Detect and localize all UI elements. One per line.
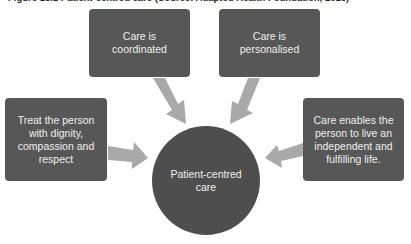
box-label: Care is coordinated	[112, 30, 167, 56]
center-circle-patient-centred-care: Patient-centred care	[152, 126, 260, 235]
box-label: Treat the person with dignity, compassio…	[18, 114, 95, 166]
box-independent-life: Care enables the person to live an indep…	[303, 98, 404, 181]
box-label: Care enables the person to live an indep…	[314, 114, 394, 166]
arrow-coordinated-icon	[153, 78, 186, 124]
box-care-personalised: Care is personalised	[219, 9, 320, 77]
box-dignity-respect: Treat the person with dignity, compassio…	[5, 98, 107, 181]
arrow-independent-icon	[265, 143, 303, 168]
box-label: Care is personalised	[240, 30, 300, 56]
arrow-dignity-icon	[108, 142, 148, 169]
box-care-coordinated: Care is coordinated	[89, 9, 190, 77]
arrow-personalised-icon	[230, 78, 260, 124]
center-label: Patient-centred care	[170, 168, 241, 194]
